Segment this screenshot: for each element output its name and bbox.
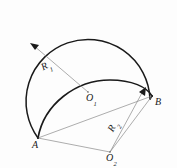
label-center-o1: O1: [86, 93, 96, 106]
radius-r2-arrowhead: [139, 87, 146, 96]
label-center-o1-subscript: 1: [94, 100, 97, 107]
radius-r2-line: [110, 91, 143, 152]
side-a-o2: [38, 138, 110, 152]
label-center-o2-subscript: 2: [114, 160, 117, 167]
figure-canvas: [0, 0, 177, 168]
section-upper-arc: [38, 80, 152, 138]
label-point-a: A: [32, 140, 38, 150]
label-center-o2: O2: [106, 153, 116, 166]
geometry-figure: A B O1 O2 R1 R2: [0, 0, 177, 168]
label-point-b: B: [155, 97, 161, 107]
vertex-b-dot: [151, 95, 153, 97]
